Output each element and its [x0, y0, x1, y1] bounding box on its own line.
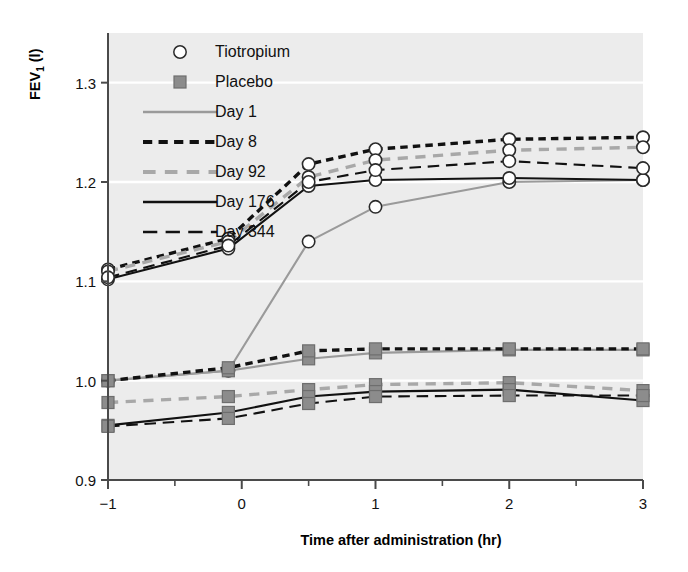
y-axis-title-unit: (l) [27, 48, 43, 66]
data-point-open-circle [302, 235, 314, 247]
fev1-time-course-chart: 0.91.01.11.21.3−10123 FEV1 (l) Time afte… [0, 0, 688, 572]
data-point-open-circle [222, 239, 234, 251]
data-point-open-circle [503, 172, 515, 184]
x-tick-label: 0 [238, 495, 246, 512]
data-point-open-circle [369, 201, 381, 213]
x-tick-label: 1 [371, 495, 379, 512]
y-tick-label: 1.2 [75, 174, 96, 191]
data-point-filled-square [222, 412, 234, 424]
legend-filled-square-icon [174, 76, 186, 88]
y-tick-label: 0.9 [75, 472, 96, 489]
data-point-filled-square [370, 391, 382, 403]
legend-label-day-1: Day 1 [215, 103, 257, 120]
y-tick-label: 1.3 [75, 75, 96, 92]
legend-label-day-8: Day 8 [215, 133, 257, 150]
data-point-open-circle [637, 174, 649, 186]
legend-label-day-92: Day 92 [215, 163, 266, 180]
data-point-filled-square [637, 343, 649, 355]
data-point-filled-square [637, 390, 649, 402]
x-tick-label: 2 [505, 495, 513, 512]
data-point-filled-square [370, 343, 382, 355]
x-tick-label: 3 [639, 495, 647, 512]
x-tick-label: −1 [99, 495, 116, 512]
x-axis-title: Time after administration (hr) [300, 532, 501, 548]
legend-label-day-344: Day 344 [215, 223, 275, 240]
data-point-filled-square [503, 343, 515, 355]
data-point-open-circle [369, 164, 381, 176]
data-point-open-circle [637, 162, 649, 174]
data-point-open-circle [302, 176, 314, 188]
legend-label-tiotropium: Tiotropium [215, 43, 290, 60]
data-point-filled-square [222, 362, 234, 374]
data-point-filled-square [503, 390, 515, 402]
data-point-open-circle [302, 158, 314, 170]
data-point-open-circle [503, 155, 515, 167]
y-tick-label: 1.1 [75, 273, 96, 290]
data-point-filled-square [222, 391, 234, 403]
data-point-filled-square [303, 345, 315, 357]
data-point-open-circle [637, 141, 649, 153]
y-tick-label: 1.0 [75, 373, 96, 390]
data-point-filled-square [303, 398, 315, 410]
y-axis-title-main: FEV [27, 71, 43, 100]
legend-label-placebo: Placebo [215, 73, 273, 90]
legend-open-circle-icon [174, 46, 186, 58]
legend-label-day-176: Day 176 [215, 193, 275, 210]
